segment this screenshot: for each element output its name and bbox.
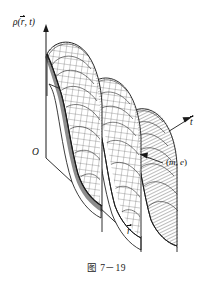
rho-label-vec: r — [21, 17, 25, 27]
figure-illustration — [0, 0, 213, 291]
figure-caption: 图 7－19 — [0, 260, 213, 274]
vertical-axis — [43, 24, 49, 158]
t-vector-glyph: t — [190, 118, 193, 128]
rho-label-prefix: ρ( — [13, 17, 21, 27]
r-axis-letter: r — [127, 226, 131, 236]
t-axis-label: t — [190, 118, 193, 128]
r-axis-vector-glyph: r — [127, 227, 131, 237]
r-vector-glyph: r — [21, 18, 25, 28]
r-axis-label: r — [127, 227, 131, 237]
figure-container: ρ(r, t) O t r (m, e) 图 7－19 — [0, 0, 213, 291]
t-axis-letter: t — [190, 117, 193, 127]
vertical-axis-label: ρ(r, t) — [13, 18, 35, 28]
rho-label-close: ) — [32, 17, 35, 27]
me-annotation-label: (m, e) — [166, 158, 187, 167]
me-close-paren: ) — [184, 157, 187, 167]
origin-label: O — [32, 148, 39, 158]
